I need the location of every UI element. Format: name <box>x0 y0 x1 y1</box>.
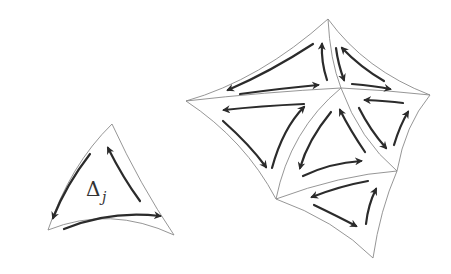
mesh-boundary <box>186 19 328 101</box>
triangle-edge <box>48 124 112 230</box>
triangle-label: Δ <box>86 177 100 201</box>
arrow-icon <box>336 48 344 80</box>
triangle-edge <box>112 124 174 235</box>
arrow-icon <box>240 85 318 94</box>
triangulated-mesh <box>186 19 430 258</box>
single-triangle: Δ j <box>48 124 174 235</box>
arrow-icon <box>224 104 304 110</box>
arrow-icon <box>312 181 368 197</box>
arrow-icon <box>64 215 160 229</box>
mesh-boundary <box>397 95 430 171</box>
arrow-icon <box>340 110 365 152</box>
diagram-canvas: Δ j <box>0 0 451 274</box>
arrow-icon <box>303 161 361 176</box>
arrow-icon <box>352 84 390 89</box>
arrow-icon <box>322 44 327 80</box>
arrow-icon <box>300 112 331 168</box>
mesh-boundary <box>373 171 397 258</box>
mesh-boundary <box>328 19 430 95</box>
arrow-icon <box>366 189 376 224</box>
arrow-icon <box>342 48 384 81</box>
arrow-icon <box>359 108 386 148</box>
arrow-icon <box>228 44 313 90</box>
mesh-boundary <box>186 101 276 199</box>
mesh-edge <box>328 19 341 88</box>
arrow-icon <box>394 112 408 145</box>
arrow-icon <box>223 121 266 167</box>
arrow-icon <box>314 205 356 226</box>
arrow-icon <box>53 154 90 218</box>
arrow-icon <box>365 100 403 103</box>
mesh-boundary <box>276 199 373 258</box>
arrow-icon <box>108 148 140 201</box>
mesh-edge <box>276 171 397 199</box>
